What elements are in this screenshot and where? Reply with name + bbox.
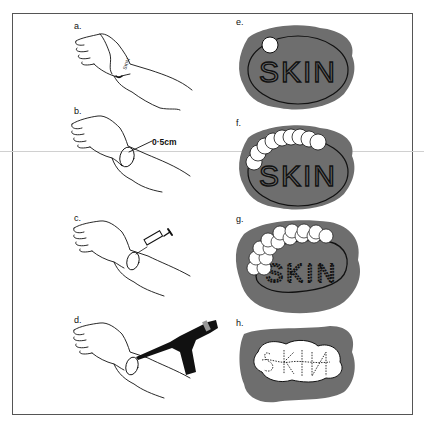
skin-patch-h — [0, 0, 424, 424]
